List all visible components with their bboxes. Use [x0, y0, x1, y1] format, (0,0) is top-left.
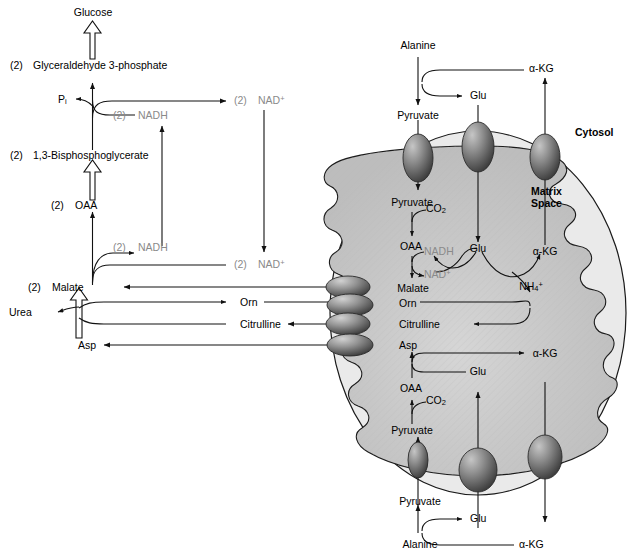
label-glu-matrix-top: Glu	[470, 243, 486, 254]
label-asp-cyt: Asp	[78, 340, 96, 351]
label-nad-matrix: NAD+	[424, 269, 451, 280]
curve-glu-out-top	[422, 84, 462, 96]
label-malate-cyt-prefix: (2)	[28, 282, 41, 293]
label-oaa-matrix-bottom: OAA	[400, 383, 422, 394]
label-alanine-top: Alanine	[400, 40, 435, 51]
label-nad-bottom-text: NAD	[258, 258, 280, 270]
label-orn-matrix: Orn	[399, 298, 417, 309]
label-oaa-matrix-top: OAA	[400, 241, 422, 252]
label-co2-top: CO2	[426, 203, 446, 215]
mitochondrion	[324, 131, 626, 495]
label-citrulline-matrix: Citrulline	[399, 319, 440, 330]
label-pyruvate-bottom-cytosol: Pyruvate	[399, 496, 440, 507]
label-glu-matrix-bottom: Glu	[470, 366, 486, 377]
label-nh4-sup: +	[538, 280, 542, 289]
hollow-arrow-asp-to-malate	[71, 288, 88, 338]
label-gap: Glyceraldehyde 3-phosphate	[33, 60, 167, 71]
label-nad-bottom-sup: +	[280, 258, 284, 267]
hollow-arrow-oaa-to-bpg	[84, 160, 101, 200]
akg-carrier-top-icon[interactable]	[530, 134, 560, 180]
label-bpg: 1,3-Bisphosphoglycerate	[33, 150, 149, 161]
curve-orn-out	[79, 302, 226, 308]
label-nad-top-prefix: (2)	[234, 95, 247, 106]
label-pyruvate-matrix-bottom: Pyruvate	[391, 425, 432, 436]
label-co2-bottom-sub: 2	[442, 398, 446, 407]
label-oaa-cyt: OAA	[75, 200, 97, 211]
label-malate-cyt: Malate	[52, 282, 84, 293]
label-co2-bottom-text: CO	[426, 394, 442, 406]
aspartate-carrier-icon[interactable]	[327, 334, 373, 356]
label-nad-bottom-prefix: (2)	[234, 259, 247, 270]
label-nad-top: NAD+	[258, 95, 285, 106]
label-nadh-matrix: NADH	[424, 246, 454, 257]
label-co2-top-sub: 2	[442, 206, 446, 215]
label-pi: Pi	[58, 94, 67, 106]
label-nad-top-sup: +	[280, 94, 284, 103]
label-asp-matrix: Asp	[399, 340, 417, 351]
glu-carrier-top-icon[interactable]	[462, 122, 494, 172]
label-malate-matrix: Malate	[397, 283, 429, 294]
label-alanine-bottom: Alanine	[402, 539, 437, 550]
label-matrix-line1: Matrix	[531, 186, 562, 197]
label-glu-bottom-cytosol: Glu	[470, 513, 486, 524]
label-oaa-cyt-prefix: (2)	[51, 200, 64, 211]
diagram-canvas	[0, 0, 628, 556]
label-nad-top-text: NAD	[258, 94, 280, 106]
curve-akg-in-top	[422, 70, 524, 82]
label-nadh-bottom-prefix: (2)	[113, 242, 126, 253]
label-matrix-line2: Space	[531, 198, 562, 209]
label-bpg-prefix: (2)	[10, 150, 23, 161]
label-glu-top-cytosol: Glu	[470, 90, 486, 101]
urea-cycle-arrows	[58, 287, 330, 345]
label-gap-prefix: (2)	[10, 60, 23, 71]
curve-nad-to-malate-bottom	[93, 265, 227, 282]
label-co2-top-text: CO	[426, 202, 442, 214]
label-akg-matrix-top: α-KG	[533, 246, 558, 257]
label-akg-matrix-bottom: α-KG	[533, 348, 558, 359]
label-akg-top-cytosol: α-KG	[529, 63, 554, 74]
akg-carrier-bottom-icon[interactable]	[528, 435, 562, 479]
label-pyruvate-top-cytosol: Pyruvate	[397, 110, 438, 121]
label-cytosol: Cytosol	[575, 127, 614, 138]
label-nh4-text: NH	[519, 280, 534, 292]
label-nad-bottom: NAD+	[258, 259, 285, 270]
pathway-diagram: Glucose (2) Glyceraldehyde 3-phosphate (…	[0, 0, 628, 556]
label-orn-cyt: Orn	[240, 297, 258, 308]
label-urea: Urea	[9, 307, 32, 318]
label-nadh-top: NADH	[138, 110, 168, 121]
citrulline-carrier-icon[interactable]	[326, 313, 370, 335]
label-nad-matrix-sup: +	[446, 268, 450, 277]
curve-glu-out-bottom	[422, 519, 462, 531]
pyruvate-carrier-bottom-icon[interactable]	[408, 442, 428, 478]
label-citrulline-cyt: Citrulline	[240, 319, 281, 330]
label-akg-bottom-cytosol: α-KG	[519, 539, 544, 550]
pyruvate-carrier-top-icon[interactable]	[403, 134, 433, 182]
label-pi-symbol: P	[58, 93, 65, 105]
label-nad-matrix-text: NAD	[424, 268, 446, 280]
glu-carrier-bottom-icon[interactable]	[459, 448, 497, 492]
curve-citrulline-in	[79, 318, 226, 324]
label-nadh-bottom: NADH	[138, 242, 168, 253]
label-pi-subscript: i	[65, 97, 67, 106]
arrow-to-pi	[76, 99, 93, 106]
label-glucose: Glucose	[74, 7, 113, 18]
label-nh4-matrix: NH4+	[519, 281, 543, 293]
hollow-arrow-gap-to-glucose	[84, 21, 101, 59]
label-nadh-top-prefix: (2)	[113, 110, 126, 121]
label-co2-bottom: CO2	[426, 395, 446, 407]
